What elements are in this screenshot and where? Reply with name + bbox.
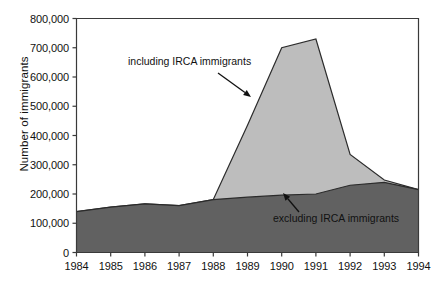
annotation-including-irca: including IRCA immigrants: [128, 55, 251, 97]
annotation-including-label: including IRCA immigrants: [128, 55, 251, 67]
immigration-area-chart: Number of immigrants 0100,000200,000300,…: [0, 0, 439, 281]
plot-area: including IRCA immigrants excluding IRCA…: [0, 0, 439, 281]
annotation-excluding-label: excluding IRCA immigrants: [273, 212, 399, 224]
